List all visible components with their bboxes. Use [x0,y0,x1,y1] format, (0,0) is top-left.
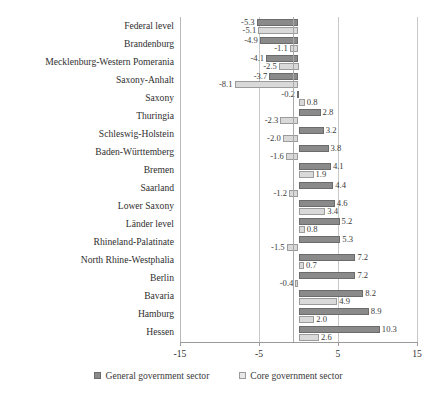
category-axis-line [180,17,181,342]
bar-group: 5.3-1.5 [180,235,417,253]
category-label: Mecklenburg-Western Pomerania [45,57,174,67]
category-label: North Rhine-Westphalia [81,255,174,265]
bar-group: 8.92.0 [180,307,417,325]
bar-group: 4.11.9 [180,162,417,180]
bar-general [299,182,334,189]
bar-group: -3.7-8.1 [180,72,417,90]
bar-general [299,290,364,297]
bar-core [299,262,305,269]
bar-group: 3.8-1.6 [180,144,417,162]
bar-core [299,298,338,305]
bar-value-label: 2.8 [323,108,334,116]
category-label: Länder level [126,219,174,229]
bar-group: 5.20.8 [180,217,417,235]
bar-group: 8.24.9 [180,289,417,307]
bar-value-label: 0.7 [306,261,317,269]
axis-tick [338,342,339,346]
category-label: Thuringia [136,111,174,121]
dark-gray-square-icon [94,372,101,379]
legend-item[interactable]: General government sector [94,370,209,381]
bar-value-label: 2.0 [316,315,327,323]
bar-general [299,145,329,152]
axis-tick-label: -5 [239,348,279,359]
bar-value-label: -1.2 [269,189,287,197]
bar-value-label: 4.6 [337,199,348,207]
bar-value-label: -4.1 [246,54,264,62]
bar-group: 2.8-2.3 [180,108,417,126]
bar-general [269,73,298,80]
bar-group: -4.1-2.5 [180,54,417,72]
bar-value-label: -1.6 [266,152,284,160]
bar-core [283,135,299,142]
bar-value-label: -2.3 [260,116,278,124]
bar-core [235,81,299,88]
category-label: Saxony [145,93,174,103]
bar-core [299,226,305,233]
bar-value-label: -1.5 [267,243,285,251]
bar-value-label: 8.2 [365,289,376,297]
plot-area: -5.3-5.1-4.9-1.1-4.1-2.5-3.7-8.1-0.20.82… [180,17,417,342]
value-axis-line [180,342,417,343]
bar-value-label: -3.7 [249,72,267,80]
category-label: Brandenburg [124,39,174,49]
bar-value-label: 4.9 [339,297,350,305]
bar-value-label: -0.4 [275,279,293,287]
zero-axis-line [293,17,294,342]
category-label: Bavaria [144,291,174,301]
bar-general [299,236,341,243]
light-gray-square-icon [239,372,246,379]
bar-value-label: 7.2 [357,271,368,279]
bar-value-label: -8.1 [215,80,233,88]
bar-group: 7.20.7 [180,253,417,271]
category-label: Hamburg [138,309,174,319]
bar-core [299,171,314,178]
bar-core [299,334,320,341]
bar-group: 4.4-1.2 [180,181,417,199]
bar-core [280,117,298,124]
bar-value-label: 3.8 [331,144,342,152]
bar-value-label: 5.2 [342,217,353,225]
bar-group: 10.32.6 [180,325,417,343]
category-label: Berlin [150,273,174,283]
bar-group: 7.2-0.4 [180,271,417,289]
bar-value-label: 7.2 [357,253,368,261]
bar-general [299,109,321,116]
legend-label: Core government sector [250,370,342,381]
axis-tick [417,342,418,346]
bar-general [299,326,380,333]
bar-value-label: 1.9 [316,170,327,178]
category-label: Baden-Württemberg [95,147,174,157]
bar-value-label: -2.0 [263,134,281,142]
bar-value-label: 2.6 [321,333,332,341]
axis-tick-label: 15 [397,348,437,359]
bar-general [297,91,299,98]
category-label: Saarland [140,183,174,193]
bar-general [299,127,324,134]
bar-value-label: 8.9 [371,307,382,315]
axis-tick [180,342,181,346]
bar-value-label: 4.1 [333,162,344,170]
bar-core [279,63,299,70]
bar-group: 4.63.4 [180,199,417,217]
bar-group: -4.9-1.1 [180,36,417,54]
bar-value-label: -5.1 [238,26,256,34]
bar-general [299,218,340,225]
bar-core [299,99,305,106]
category-label: Rhineland-Palatinate [94,237,174,247]
bar-group: 3.2-2.0 [180,126,417,144]
category-label: Federal level [124,21,174,31]
bar-core [295,280,298,287]
category-label: Lower Saxony [118,201,174,211]
gridline-15 [417,17,418,342]
axis-tick-label: -15 [160,348,200,359]
bar-core [299,316,315,323]
legend-item[interactable]: Core government sector [239,370,342,381]
bar-core [290,45,299,52]
category-label: Saxony-Anhalt [116,75,174,85]
bar-chart: Federal levelBrandenburgMecklenburg-West… [0,0,437,401]
category-label: Schleswig-Holstein [99,129,174,139]
bar-value-label: 0.8 [307,98,318,106]
axis-tick [259,342,260,346]
bar-group: -0.20.8 [180,90,417,108]
category-label: Hessen [146,327,174,337]
